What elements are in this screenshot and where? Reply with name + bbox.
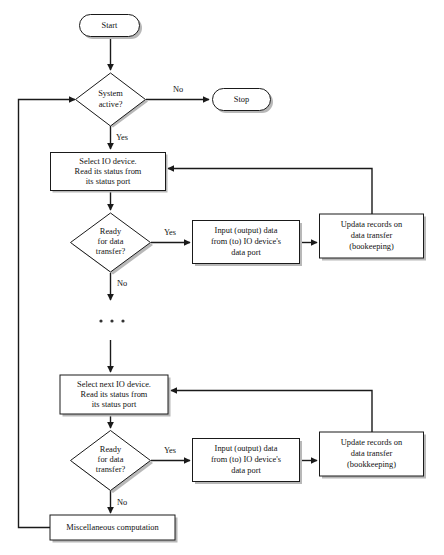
edge-label-no-to-stop: No [173,85,183,94]
node-stop: Stop [213,89,274,114]
select-next-io-line3: its status port [92,400,137,409]
node-misc-computation: Miscellaneous computation [50,515,178,543]
update-1-line2: data transfer [351,231,393,240]
edge-update-1-feedback-to-select-io [168,169,372,215]
edge-label-no-ready-1: No [117,279,127,288]
ready-2-line1: Ready [100,445,122,454]
ellipsis-dot-1 [99,319,102,322]
ready-1-line3: transfer? [96,247,126,256]
stop-label: Stop [234,95,249,104]
ready-1-line2: for data [98,237,124,246]
ready-2-line2: for data [98,455,124,464]
node-input-output-1: Input (output) data from (to) IO device'… [193,221,303,267]
select-io-line3: its status port [86,177,131,186]
ellipsis-dot-3 [121,319,124,322]
input-2-line2: from (to) IO device's [211,455,281,464]
update-2-line2: data transfer [351,449,393,458]
ready-1-line1: Ready [100,227,122,236]
input-2-line3: data port [231,466,261,475]
update-1-line1: Updata records on [341,220,403,229]
update-2-line3: (bookkeeping) [347,460,396,469]
select-next-io-line2: Read its status from [81,390,148,399]
ellipsis-dot-2 [110,319,113,322]
select-next-io-line1: Select next IO device. [77,380,151,389]
start-label: Start [102,21,118,30]
node-select-io: Select IO device. Read its status from i… [51,153,168,193]
flowchart-canvas: Start Stop System active? Select IO devi… [0,0,444,555]
node-input-output-2: Input (output) data from (to) IO device'… [193,439,303,485]
edge-label-yes-ready-1: Yes [164,228,176,237]
node-ready-1: Ready for data transfer? [71,213,154,275]
input-1-line2: from (to) IO device's [211,237,281,246]
input-2-line1: Input (output) data [215,444,278,453]
input-1-line3: data port [231,248,261,257]
edge-update-2-feedback-to-select-next-io [171,391,372,433]
node-ready-2: Ready for data transfer? [71,431,154,494]
select-io-line1: Select IO device. [79,157,136,166]
edge-label-yes-ready-2: Yes [164,446,176,455]
ellipsis-continuation [99,319,124,322]
flowchart-svg: Start Stop System active? Select IO devi… [0,0,444,555]
ready-2-line3: transfer? [96,465,126,474]
node-start: Start [80,15,143,40]
system-active-label-line1: System [98,89,123,98]
input-1-line1: Input (output) data [215,226,278,235]
node-update-records-1: Updata records on data transfer (bookeep… [320,214,427,261]
system-active-label-line2: active? [99,100,123,109]
update-1-line3: (bookeeping) [349,242,394,251]
misc-label: Miscellaneous computation [66,523,159,532]
node-select-next-io: Select next IO device. Read its status f… [60,375,171,417]
update-2-line1: Update records on [341,438,403,447]
edge-label-no-ready-2: No [117,498,127,507]
edge-label-yes-to-select-io: Yes [116,133,128,142]
select-io-line2: Read its status from [75,167,142,176]
node-system-active: System active? [76,73,149,128]
node-update-records-2: Update records on data transfer (bookkee… [320,432,427,479]
